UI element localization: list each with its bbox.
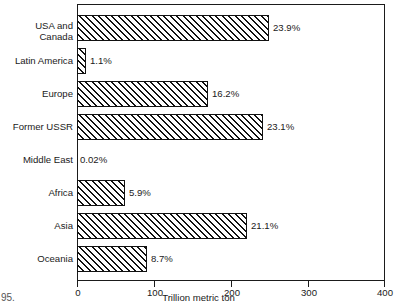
- bar-asia[interactable]: [77, 213, 247, 239]
- bar-value-europe: 16.2%: [212, 88, 239, 100]
- bar-value-latin-america: 1.1%: [90, 55, 112, 67]
- category-label-former-ussr: Former USSR: [0, 121, 73, 132]
- bar-value-middle-east: 0.02%: [80, 154, 107, 166]
- category-label-asia: Asia: [0, 220, 73, 231]
- bar-latin-america[interactable]: [77, 48, 86, 74]
- bar-value-asia: 21.1%: [251, 220, 278, 232]
- bar-oceania[interactable]: [77, 246, 147, 272]
- x-axis-title: Trillion metric ton: [0, 292, 397, 304]
- bar-europe[interactable]: [77, 81, 208, 107]
- category-label-usa-and-canada: USA and Canada: [0, 20, 73, 43]
- bar-value-africa: 5.9%: [129, 187, 151, 199]
- category-label-middle-east: Middle East: [0, 154, 73, 165]
- bar-chart: USA and Canada Latin America Europe Form…: [0, 0, 397, 308]
- bar-usa-and-canada[interactable]: [77, 15, 269, 41]
- category-label-oceania: Oceania: [0, 253, 73, 264]
- bar-africa[interactable]: [77, 180, 125, 206]
- bar-former-ussr[interactable]: [77, 114, 263, 140]
- bars-layer: 23.9% 1.1% 16.2% 23.1% 0.02% 5.9% 21.1% …: [77, 4, 385, 281]
- category-label-africa: Africa: [0, 187, 73, 198]
- category-axis-labels: USA and Canada Latin America Europe Form…: [0, 4, 73, 281]
- bar-value-usa-and-canada: 23.9%: [273, 22, 300, 34]
- category-label-europe: Europe: [0, 88, 73, 99]
- bar-value-former-ussr: 23.1%: [267, 121, 294, 133]
- category-label-latin-america: Latin America: [0, 55, 73, 66]
- bar-value-oceania: 8.7%: [151, 253, 173, 265]
- page-number-fragment: 95.: [1, 292, 15, 304]
- bar-middle-east[interactable]: [77, 147, 78, 173]
